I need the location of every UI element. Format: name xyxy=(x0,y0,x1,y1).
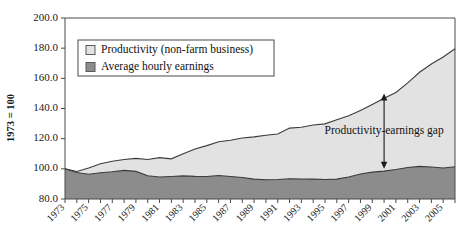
x-tick-label: 1981 xyxy=(139,202,161,224)
x-tick-label: 1985 xyxy=(186,202,208,224)
chart-legend: Productivity (non-farm business)Average … xyxy=(78,40,274,76)
y-tick-label: 80.0 xyxy=(39,192,59,204)
x-tick-label: 1973 xyxy=(44,202,66,224)
x-axis-tick-labels: 1973197519771979198119831985198719891991… xyxy=(44,202,444,224)
chart-container: 80.0100.0120.0140.0160.0180.0200.0 19731… xyxy=(0,0,472,244)
x-tick-label: 1977 xyxy=(92,202,114,224)
x-tick-label: 1989 xyxy=(234,202,256,224)
x-tick-label: 2005 xyxy=(423,202,445,224)
legend-label: Productivity (non-farm business) xyxy=(101,43,253,56)
gap-annotation-label: Productivity-earnings gap xyxy=(325,124,444,137)
y-tick-label: 200.0 xyxy=(33,11,58,23)
x-tick-label: 1993 xyxy=(281,202,303,224)
y-tick-label: 120.0 xyxy=(33,131,58,143)
x-tick-label: 1991 xyxy=(257,202,279,224)
x-tick-label: 2003 xyxy=(399,202,421,224)
y-tick-label: 160.0 xyxy=(33,71,58,83)
legend-swatch xyxy=(86,63,95,72)
y-axis-tick-labels: 80.0100.0120.0140.0160.0180.0200.0 xyxy=(33,11,58,204)
y-tick-label: 180.0 xyxy=(33,41,58,53)
x-tick-label: 1999 xyxy=(352,202,374,224)
x-tick-label: 1987 xyxy=(210,202,232,224)
legend-label: Average hourly earnings xyxy=(101,60,214,73)
x-axis-ticks xyxy=(65,199,455,203)
x-tick-label: 1997 xyxy=(328,202,350,224)
x-tick-label: 2001 xyxy=(375,202,397,224)
x-tick-label: 1995 xyxy=(304,202,326,224)
legend-swatch xyxy=(86,46,95,55)
y-tick-label: 140.0 xyxy=(33,101,58,113)
x-tick-label: 1979 xyxy=(115,202,137,224)
x-tick-label: 1983 xyxy=(163,202,185,224)
y-axis-title: 1973 = 100 xyxy=(5,94,16,142)
y-axis-ticks xyxy=(61,18,65,199)
x-tick-label: 1975 xyxy=(68,202,90,224)
productivity-earnings-area-chart: 80.0100.0120.0140.0160.0180.0200.0 19731… xyxy=(0,0,472,244)
y-tick-label: 100.0 xyxy=(33,161,58,173)
